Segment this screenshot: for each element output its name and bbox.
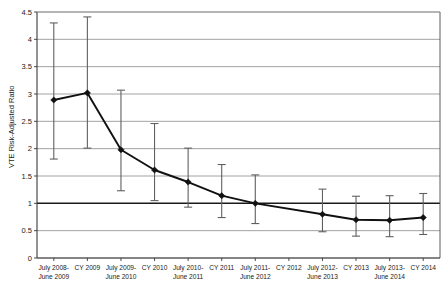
x-tick-label: CY 2009 <box>75 264 101 271</box>
x-tick-label-second-line: June 2012 <box>240 273 271 280</box>
y-tick-label: 0.5 <box>22 226 32 235</box>
y-axis-title: VTE Risk-Adjusted Ratio <box>7 85 16 168</box>
x-tick-label: July 2009- <box>106 264 136 272</box>
y-tick-label: 0 <box>28 254 32 263</box>
x-tick-label: July 2008- <box>39 264 69 272</box>
data-point-marker <box>51 97 57 103</box>
x-tick-label-second-line: June 2010 <box>106 273 137 280</box>
x-tick-label: July 2010- <box>173 264 203 272</box>
x-tick-label: July 2012- <box>307 264 337 272</box>
y-tick-label: 1 <box>28 199 32 208</box>
chart-canvas: 00.511.522.533.544.5 July 2008-June 2009… <box>0 0 445 295</box>
x-tick-label-second-line: June 2014 <box>374 273 405 280</box>
data-point-marker <box>319 211 325 217</box>
data-point-marker <box>387 217 393 223</box>
gridlines-group <box>37 12 440 258</box>
data-point-marker <box>252 200 258 206</box>
x-tick-label-second-line: June 2009 <box>38 273 69 280</box>
data-point-marker <box>219 193 225 199</box>
y-tick-label: 3.5 <box>22 62 32 71</box>
vte-ratio-chart: 00.511.522.533.544.5 July 2008-June 2009… <box>0 0 445 295</box>
x-tick-label: CY 2014 <box>410 264 436 271</box>
y-tick-label: 4.5 <box>22 8 32 17</box>
y-tick-label: 1.5 <box>22 172 32 181</box>
x-tick-label: CY 2012 <box>276 264 302 271</box>
data-line-group <box>54 93 423 220</box>
x-tick-label-second-line: June 2013 <box>307 273 338 280</box>
x-tick-label: July 2011- <box>240 264 270 272</box>
plot-frame <box>37 12 440 258</box>
data-point-marker <box>353 217 359 223</box>
x-tick-label: CY 2010 <box>142 264 168 271</box>
x-tick-label: July 2013- <box>374 264 404 272</box>
x-tick-label: CY 2013 <box>343 264 369 271</box>
series-line-vte-ratio <box>54 93 423 220</box>
data-point-marker <box>420 214 426 220</box>
y-tick-label: 3 <box>28 90 32 99</box>
x-axis-tick-labels: July 2008-June 2009CY 2009July 2009-June… <box>38 264 436 280</box>
data-point-marker <box>185 179 191 185</box>
y-axis-tick-labels: 00.511.522.533.544.5 <box>22 8 32 263</box>
x-tick-label-second-line: June 2011 <box>173 273 204 280</box>
y-tick-label: 4 <box>28 35 32 44</box>
x-tick-label: CY 2011 <box>209 264 234 271</box>
y-tick-label: 2.5 <box>22 117 32 126</box>
y-tick-label: 2 <box>28 144 32 153</box>
